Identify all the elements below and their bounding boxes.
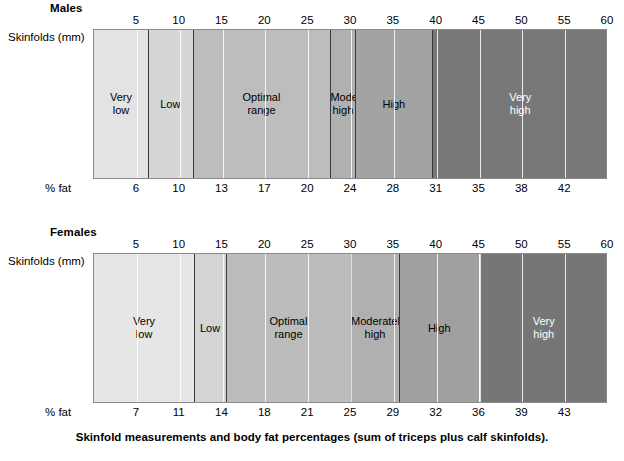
bottom-tick-label: 28 — [386, 182, 399, 194]
gridline — [180, 254, 181, 402]
top-tick-label: 55 — [558, 238, 571, 250]
bottom-tick-label: 39 — [515, 406, 528, 418]
bottom-tick-label: 31 — [429, 182, 442, 194]
gridline — [522, 254, 523, 402]
bottom-tick-label: 11 — [173, 406, 185, 418]
males-plot-area: Very lowLowOptimal rangeModerately highH… — [93, 29, 607, 179]
band-separator — [193, 30, 194, 178]
band-very-high — [480, 254, 608, 402]
males-skinfolds-axis-label: Skinfolds (mm) — [8, 31, 85, 43]
top-tick-label: 40 — [429, 14, 442, 26]
gridline — [223, 254, 224, 402]
top-tick-label: 10 — [172, 14, 185, 26]
bottom-tick-label: 24 — [344, 182, 357, 194]
gridline — [308, 30, 309, 178]
gridline — [437, 30, 438, 178]
gridline — [308, 254, 309, 402]
top-tick-label: 5 — [133, 238, 139, 250]
males-title: Males — [50, 2, 82, 14]
gridline — [565, 254, 566, 402]
band-optimal-range — [226, 254, 351, 402]
top-tick-label: 45 — [472, 14, 485, 26]
gridline — [137, 30, 138, 178]
top-tick-label: 25 — [301, 238, 314, 250]
top-tick-label: 50 — [515, 14, 528, 26]
bottom-tick-label: 14 — [215, 406, 228, 418]
band-very-high — [432, 30, 607, 178]
band-very-low — [94, 30, 148, 178]
gridline — [265, 254, 266, 402]
band-separator — [148, 30, 149, 178]
band-separator — [226, 254, 227, 402]
band-low — [194, 254, 226, 402]
females-top-axis: 51015202530354045505560 — [0, 238, 624, 252]
top-tick-label: 30 — [344, 238, 357, 250]
top-tick-label: 20 — [258, 238, 271, 250]
top-tick-label: 10 — [172, 238, 185, 250]
top-tick-label: 25 — [301, 14, 314, 26]
bottom-tick-label: 6 — [133, 182, 139, 194]
gridline — [565, 30, 566, 178]
top-tick-label: 45 — [472, 238, 485, 250]
band-high — [399, 254, 480, 402]
band-separator — [399, 254, 400, 402]
top-tick-label: 30 — [344, 14, 357, 26]
bottom-tick-label: 29 — [386, 406, 399, 418]
bottom-tick-label: 36 — [472, 406, 485, 418]
females-title: Females — [50, 226, 97, 238]
bottom-tick-label: 43 — [558, 406, 571, 418]
band-separator — [432, 30, 433, 178]
bottom-tick-label: 38 — [515, 182, 528, 194]
females-skinfolds-axis-label: Skinfolds (mm) — [8, 255, 85, 267]
gridline — [351, 30, 352, 178]
bottom-tick-label: 25 — [344, 406, 357, 418]
band-separator — [355, 30, 356, 178]
males-top-axis: 51015202530354045505560 — [0, 14, 624, 28]
bottom-tick-label: 35 — [472, 182, 485, 194]
bottom-tick-label: 20 — [301, 182, 314, 194]
top-tick-label: 55 — [558, 14, 571, 26]
gridline — [394, 254, 395, 402]
top-tick-label: 60 — [601, 14, 614, 26]
top-tick-label: 15 — [215, 14, 228, 26]
bottom-tick-label: 32 — [429, 406, 442, 418]
bottom-tick-label: 21 — [301, 406, 314, 418]
gridline — [522, 30, 523, 178]
band-separator — [194, 254, 195, 402]
gridline — [223, 30, 224, 178]
gridline — [437, 254, 438, 402]
females-plot-area: Very lowLowOptimal rangeModerately highH… — [93, 253, 607, 403]
gridline — [180, 30, 181, 178]
band-low — [148, 30, 193, 178]
bottom-tick-label: 17 — [258, 182, 271, 194]
bottom-tick-label: 13 — [215, 182, 228, 194]
gridline — [394, 30, 395, 178]
bottom-tick-label: 18 — [258, 406, 271, 418]
figure-caption: Skinfold measurements and body fat perce… — [0, 431, 624, 443]
band-separator — [330, 30, 331, 178]
top-tick-label: 50 — [515, 238, 528, 250]
band-optimal-range — [193, 30, 331, 178]
top-tick-label: 35 — [386, 238, 399, 250]
gridline — [480, 254, 481, 402]
bottom-tick-label: 7 — [133, 406, 139, 418]
band-moderately-high — [351, 254, 399, 402]
top-tick-label: 35 — [386, 14, 399, 26]
gridline — [137, 254, 138, 402]
gridline — [351, 254, 352, 402]
top-tick-label: 60 — [601, 238, 614, 250]
gridline — [265, 30, 266, 178]
top-tick-label: 20 — [258, 14, 271, 26]
bottom-tick-label: 10 — [172, 182, 185, 194]
top-tick-label: 15 — [215, 238, 228, 250]
gridline — [480, 30, 481, 178]
females-bottom-axis: 711141821252932363943 — [0, 406, 624, 420]
males-bottom-axis: 610131720242831353842 — [0, 182, 624, 196]
top-tick-label: 5 — [133, 14, 139, 26]
top-tick-label: 40 — [429, 238, 442, 250]
bottom-tick-label: 42 — [558, 182, 571, 194]
